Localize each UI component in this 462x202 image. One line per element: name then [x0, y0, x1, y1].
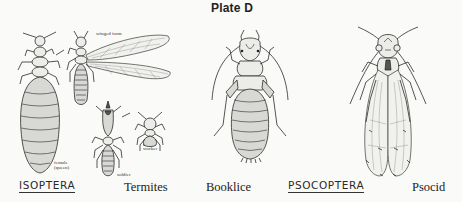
common-name-psocid: Psocid: [412, 180, 445, 194]
caption-queen: (queen): [54, 165, 69, 170]
termite-queen-illustration: [18, 32, 64, 173]
caption-soldier: soldier: [117, 172, 131, 177]
booklouse-illustration: [212, 30, 288, 163]
insect-illustrations: [0, 0, 462, 202]
termite-soldier-illustration: [92, 101, 130, 176]
order-label-psocoptera: PSOCOPTERA: [288, 179, 364, 193]
caption-worker: worker: [143, 146, 157, 151]
common-name-termites: Termites: [124, 180, 168, 194]
psocid-illustration: [350, 27, 426, 176]
termite-winged-illustration: [67, 31, 170, 105]
plate-title: Plate D: [211, 1, 253, 15]
common-name-booklice: Booklice: [206, 180, 251, 194]
illustration-plate: Plate D winged form female (queen) soldi…: [0, 0, 462, 202]
caption-winged-form: winged form: [96, 31, 122, 36]
order-label-isoptera: ISOPTERA: [19, 179, 75, 193]
